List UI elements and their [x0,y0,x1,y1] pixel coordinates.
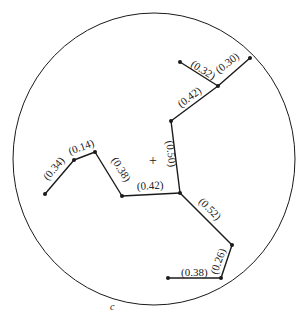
node-a [178,60,182,64]
label-j-k: (0.26) [208,246,229,276]
edge-f-e [122,193,180,196]
label-h-g: (0.14) [67,136,97,157]
label-i-h: (0.34) [40,154,67,183]
label-e-j: (0.52) [196,195,224,223]
nodes [43,56,252,280]
label-e-d: (0.50) [163,140,179,168]
node-j [230,243,234,247]
node-d [169,119,173,123]
label-f-e: (0.42) [136,179,164,193]
node-l [166,276,170,280]
center-marker: + [149,153,157,168]
edges [45,58,250,278]
node-h [72,158,76,162]
node-k [219,276,223,280]
node-b [248,56,252,60]
node-i [43,192,47,196]
node-c [216,84,220,88]
node-f [120,194,124,198]
node-e [178,191,182,195]
label-l-k: (0.38) [181,266,208,279]
label-c-b: (0.30) [213,50,242,77]
node-g [93,150,97,154]
tree-diagram: (0.32) (0.30) (0.42) (0.50) (0.42) (0.38… [0,0,304,323]
caption: c [110,301,115,312]
